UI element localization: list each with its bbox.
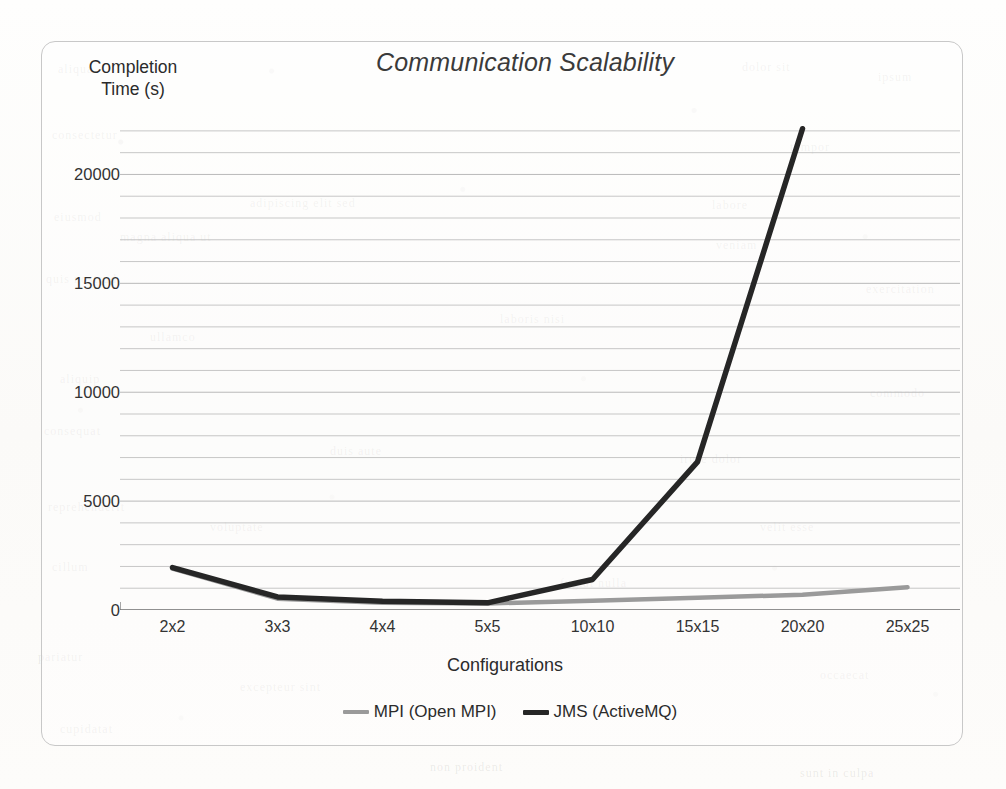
- chart-legend: MPI (Open MPI) JMS (ActiveMQ): [280, 702, 740, 722]
- series-line-jms: [173, 129, 803, 603]
- x-axis-tick-label: 15x15: [653, 618, 743, 636]
- bleed-through-mark: sunt in culpa: [800, 766, 874, 781]
- x-axis-tick-label: 20x20: [758, 618, 848, 636]
- x-axis-tick-labels: 2x23x34x45x510x1015x1520x2025x25: [120, 618, 960, 648]
- y-axis-tick-label: 15000: [30, 274, 120, 293]
- legend-label-mpi: MPI (Open MPI): [374, 702, 497, 722]
- plot-svg: [120, 120, 960, 610]
- y-axis-tick-label: 0: [30, 601, 120, 620]
- x-axis-tick-label: 4x4: [338, 618, 428, 636]
- x-axis-title: Configurations: [380, 655, 630, 676]
- legend-line-swatch-jms: [523, 710, 549, 715]
- x-axis-tick-label: 5x5: [443, 618, 533, 636]
- y-axis-tick-label: 5000: [30, 492, 120, 511]
- chart-title: Communication Scalability: [330, 48, 720, 77]
- legend-line-swatch-mpi: [343, 710, 369, 714]
- chart-page: aliquadolor sitipsumconsecteturtemporadi…: [0, 0, 1006, 789]
- series-lines: [173, 129, 908, 604]
- legend-item-jms[interactable]: JMS (ActiveMQ): [523, 702, 678, 722]
- gridlines: [120, 131, 960, 610]
- y-axis-tick-labels: 05000100001500020000: [10, 0, 120, 789]
- bleed-through-mark: non proident: [430, 760, 503, 775]
- x-axis-tick-label: 3x3: [233, 618, 323, 636]
- legend-item-mpi[interactable]: MPI (Open MPI): [343, 702, 497, 722]
- y-axis-tick-label: 10000: [30, 383, 120, 402]
- x-axis-tick-label: 10x10: [548, 618, 638, 636]
- plot-area: [120, 120, 960, 610]
- legend-label-jms: JMS (ActiveMQ): [554, 702, 678, 722]
- y-axis-tick-label: 20000: [30, 165, 120, 184]
- x-axis-tick-label: 25x25: [863, 618, 953, 636]
- x-axis-tick-label: 2x2: [128, 618, 218, 636]
